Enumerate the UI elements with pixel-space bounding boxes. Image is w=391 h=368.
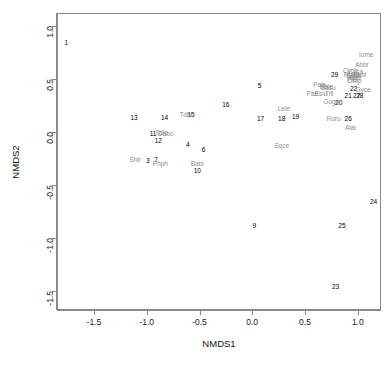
data-label-24: 24 xyxy=(370,198,377,205)
data-label-16: 16 xyxy=(222,102,229,109)
data-label-10: 10 xyxy=(194,168,201,175)
data-label-9: 9 xyxy=(252,223,256,230)
y-axis-title-label: NMDS2 xyxy=(10,145,21,178)
data-label-12: 12 xyxy=(155,138,162,145)
data-label-14: 14 xyxy=(161,115,168,122)
data-label-29: 29 xyxy=(331,71,338,78)
data-label-28: 28 xyxy=(356,92,363,99)
data-label-6: 6 xyxy=(202,147,206,154)
data-label-3: 3 xyxy=(146,158,150,165)
data-label-phph: Phph xyxy=(153,161,168,168)
data-label-13: 13 xyxy=(130,115,137,122)
x-tick-label: -1.5 xyxy=(87,317,102,327)
data-label-4: 4 xyxy=(186,141,190,148)
data-label-babi: Babi xyxy=(191,161,204,168)
x-tick-label: 0.0 xyxy=(246,317,258,327)
x-axis: -1.5-1.0-0.50.00.51.0 xyxy=(57,310,381,340)
x-tick-mark xyxy=(358,311,359,315)
page-title xyxy=(0,0,391,2)
y-tick-label: 0.5 xyxy=(45,79,55,91)
data-label-lele: Lele xyxy=(278,106,290,113)
data-label-sqce: Sqce xyxy=(274,143,289,150)
x-tick-label: -1.0 xyxy=(139,317,154,327)
data-label-alal: Alal xyxy=(345,125,356,132)
x-tick-label: -0.5 xyxy=(192,317,207,327)
x-tick-mark xyxy=(147,311,148,315)
data-label-gogo: Gogo xyxy=(323,98,339,105)
data-label-18: 18 xyxy=(278,116,285,123)
plot-panel: 1295222127282016131415171819261112463710… xyxy=(57,13,381,310)
x-tick-mark xyxy=(94,311,95,315)
data-label-21: 21 xyxy=(345,92,352,99)
data-label-tdbb: Tdbb xyxy=(179,112,194,119)
data-label-dtop: Dtop xyxy=(348,78,362,85)
x-axis-title: NMDS1 xyxy=(57,338,381,349)
x-tick-mark xyxy=(305,311,306,315)
y-tick-label: -1.5 xyxy=(45,291,55,306)
y-tick-label: 0.0 xyxy=(45,132,55,144)
x-axis-line xyxy=(57,310,381,311)
y-tick-label: 1.0 xyxy=(45,26,55,38)
data-point-labels: 1295222127282016131415171819261112463710… xyxy=(58,14,380,309)
nmds-ordination-figure: 1295222127282016131415171819261112463710… xyxy=(0,0,391,368)
y-tick-label: -1.0 xyxy=(45,238,55,253)
x-tick-label: 0.5 xyxy=(299,317,311,327)
data-label-iome: Iome xyxy=(359,52,373,59)
data-label-23: 23 xyxy=(332,283,339,290)
x-tick-mark xyxy=(200,311,201,315)
y-axis: 1.00.50.0-0.5-1.0-1.5 xyxy=(28,13,57,310)
y-axis-line xyxy=(56,13,57,310)
data-label-5: 5 xyxy=(258,83,262,90)
data-label-dabo: Dabo xyxy=(158,131,174,138)
x-tick-mark xyxy=(252,311,253,315)
data-label-1: 1 xyxy=(65,39,69,46)
x-tick-label: 1.0 xyxy=(352,317,364,327)
data-label-26: 26 xyxy=(345,116,352,123)
data-label-25: 25 xyxy=(338,223,345,230)
y-axis-title: NMDS2 xyxy=(8,13,22,310)
data-label-19: 19 xyxy=(292,114,299,121)
data-label-shir: Shir xyxy=(129,157,141,164)
y-tick-label: -0.5 xyxy=(45,185,55,200)
data-label-gyce: Gyce xyxy=(355,87,370,94)
data-label-ruru: Ruru xyxy=(326,115,340,122)
data-label-17: 17 xyxy=(257,116,264,123)
